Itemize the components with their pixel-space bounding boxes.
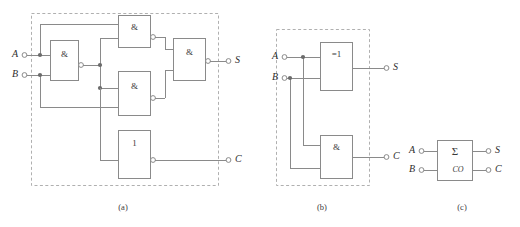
panel-a-and-ab-symbol: &: [61, 49, 68, 59]
panel-b-label-c: C: [393, 150, 400, 161]
panel-a-label-s: S: [235, 54, 240, 65]
panel-b-xor-symbol: =1: [332, 49, 342, 59]
panel-b-input-b-net: B: [272, 71, 320, 168]
panel-a-and-out-symbol: &: [186, 47, 193, 57]
panel-c-input-b: B: [409, 163, 438, 174]
panel-a-and-gate-ab: &: [51, 41, 101, 81]
panel-c-label-b: B: [409, 163, 415, 174]
panel-a-or-gate-carry: 1 C: [119, 131, 243, 179]
panel-a-label-c: C: [235, 153, 242, 164]
panel-a-and-gate-output: & S: [174, 39, 241, 81]
panel-a-terminal-s[interactable]: [226, 59, 231, 64]
panel-b-label-s: S: [393, 61, 398, 72]
panel-a-or-symbol: 1: [132, 138, 137, 148]
panel-b-junction-b: [288, 76, 292, 80]
panel-a-label-b: B: [12, 68, 18, 79]
panel-b-terminal-c[interactable]: [384, 155, 389, 160]
panel-c-label-s: S: [495, 144, 500, 155]
panel-c-terminal-a[interactable]: [419, 149, 424, 154]
panel-c-output-s: S: [473, 144, 501, 155]
panel-a-junction-a: [38, 53, 42, 57]
panel-a-and-ab-output-bubble: [79, 63, 84, 68]
panel-a-terminal-b[interactable]: [22, 73, 27, 78]
panel-a-junction-nand-out: [98, 63, 102, 67]
panel-a-junction-b: [38, 73, 42, 77]
panel-a-and-gate-middle: &: [119, 70, 174, 116]
panel-b-terminal-b[interactable]: [282, 76, 287, 81]
panel-b-terminal-s[interactable]: [384, 66, 389, 71]
panel-b-terminal-a[interactable]: [282, 55, 287, 60]
panel-c-co-symbol: CO: [452, 165, 463, 174]
circuit-diagram-svg: A B &: [0, 0, 520, 227]
panel-b-label-b: B: [272, 71, 278, 82]
panel-a-and-mid-output-bubble: [151, 96, 156, 101]
panel-b-junction-a: [301, 55, 305, 59]
panel-a-or-output-bubble: [151, 158, 156, 163]
panel-c-terminal-b[interactable]: [419, 168, 424, 173]
panel-a-terminal-a[interactable]: [22, 53, 27, 58]
panel-b-xor-gate: =1 S: [321, 43, 399, 91]
panel-c-label-a: A: [408, 144, 416, 155]
panel-c-label-c: C: [495, 163, 502, 174]
panel-c: Σ CO A B S C (c): [408, 141, 502, 212]
panel-a-nand-fanout-net: [98, 38, 118, 160]
panel-c-input-a: A: [408, 144, 438, 155]
panel-a-terminal-c[interactable]: [226, 158, 231, 163]
panel-c-terminal-s[interactable]: [486, 149, 491, 154]
panel-a-and-gate-top: &: [119, 16, 174, 50]
panel-a-and-top-output-bubble: [151, 35, 156, 40]
panel-b-and-gate: & C: [321, 136, 401, 179]
panel-c-output-c: C: [473, 163, 503, 174]
panel-c-sigma-symbol: Σ: [452, 145, 458, 157]
panel-b-input-a-net: A: [271, 50, 320, 145]
panel-b-label-a: A: [271, 50, 279, 61]
panel-b-caption: (b): [317, 202, 327, 212]
panel-a: A B &: [11, 14, 242, 212]
panel-a-and-mid-symbol: &: [131, 81, 138, 91]
panel-a-label-a: A: [11, 48, 19, 59]
figure-root: A B &: [0, 0, 520, 227]
panel-c-caption: (c): [457, 202, 467, 212]
panel-a-caption: (a): [118, 202, 128, 212]
panel-c-terminal-c[interactable]: [486, 168, 491, 173]
panel-b-and-symbol: &: [333, 142, 340, 152]
panel-a-and-top-symbol: &: [131, 22, 138, 32]
panel-b: A B =1 S & C (b): [271, 30, 400, 212]
panel-a-and-out-output-bubble: [206, 59, 211, 64]
